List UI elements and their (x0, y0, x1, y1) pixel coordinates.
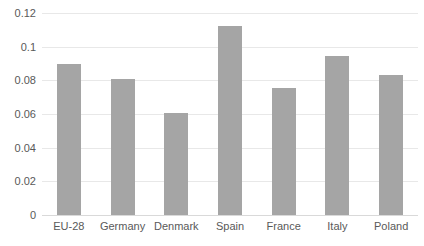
y-axis-tick-label: 0.06 (0, 109, 36, 120)
y-axis-tick-label: 0.04 (0, 143, 36, 154)
bars-group (42, 0, 418, 246)
y-axis-tick-label: 0.1 (0, 42, 36, 53)
x-axis-tick-label: Germany (96, 219, 150, 233)
bar-denmark[interactable] (164, 113, 188, 215)
x-axis: EU-28GermanyDenmarkSpainFranceItalyPolan… (42, 219, 418, 239)
bar-eu-28[interactable] (57, 64, 81, 215)
x-axis-tick-label: Italy (311, 219, 365, 233)
bar-germany[interactable] (111, 79, 135, 215)
bar-slot (96, 0, 150, 246)
y-axis-tick-label: 0.12 (0, 8, 36, 19)
plot-area (42, 0, 418, 246)
x-axis-tick-label: Spain (203, 219, 257, 233)
x-axis-tick-label: Poland (364, 219, 418, 233)
y-axis-tick-label: 0.08 (0, 75, 36, 86)
bar-slot (149, 0, 203, 246)
x-axis-tick-label: Denmark (149, 219, 203, 233)
bar-slot (203, 0, 257, 246)
y-axis: 00.020.040.060.080.10.12 (0, 0, 36, 246)
x-axis-tick-label: France (257, 219, 311, 233)
bar-italy[interactable] (325, 56, 349, 215)
x-axis-tick-label: EU-28 (42, 219, 96, 233)
bar-poland[interactable] (379, 75, 403, 215)
bar-slot (311, 0, 365, 246)
y-axis-tick-label: 0 (0, 210, 36, 221)
bar-slot (364, 0, 418, 246)
bar-spain[interactable] (218, 26, 242, 215)
y-axis-tick-label: 0.02 (0, 176, 36, 187)
bar-france[interactable] (272, 88, 296, 215)
bar-chart: 00.020.040.060.080.10.12 EU-28GermanyDen… (0, 0, 424, 246)
bar-slot (257, 0, 311, 246)
bar-slot (42, 0, 96, 246)
